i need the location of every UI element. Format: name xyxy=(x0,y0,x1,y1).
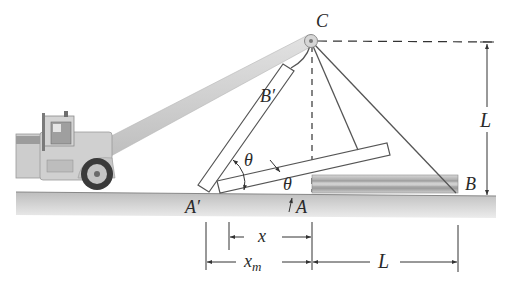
ground xyxy=(16,192,496,218)
label-dim-xm: xm xyxy=(243,251,261,274)
crane-truck xyxy=(16,111,115,190)
pipe-stack xyxy=(312,175,458,193)
label-theta-upper: θ xyxy=(244,150,253,170)
label-L-height: L xyxy=(479,109,491,131)
label-dim-L: L xyxy=(377,250,389,272)
label-A: A xyxy=(295,197,308,217)
label-theta-lower: θ xyxy=(283,174,292,194)
label-B-prime: B′ xyxy=(260,86,276,106)
pulley-C xyxy=(305,35,318,48)
label-A-prime: A′ xyxy=(184,197,201,217)
crane-boom xyxy=(88,35,314,162)
crane-beam-diagram: C B′ θ θ A′ A B L x xm L xyxy=(0,0,508,290)
cable-to-B xyxy=(314,44,456,193)
label-B: B xyxy=(465,174,476,194)
label-C: C xyxy=(316,11,329,31)
cable-to-inclined-beam xyxy=(313,46,358,150)
label-dim-x: x xyxy=(257,226,266,246)
horizontal-dashed-line xyxy=(318,41,496,42)
